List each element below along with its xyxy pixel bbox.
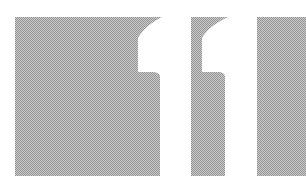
numeral-eleven-graphic: [0, 0, 306, 192]
gray-panel-right: [257, 17, 306, 176]
gray-panel-left: [15, 17, 162, 176]
gray-panel-middle: [191, 17, 228, 176]
numeral-graphic: 11: [0, 0, 306, 192]
